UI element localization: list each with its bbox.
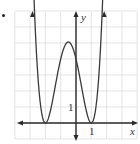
- x-tick-label-1: 1: [89, 126, 95, 137]
- curve-arrows: [30, 11, 107, 17]
- y-tick-label-1: 1: [68, 102, 74, 113]
- y-axis-label: y: [81, 12, 86, 23]
- x-axis-label: x: [130, 126, 135, 137]
- function-graph: [0, 0, 140, 144]
